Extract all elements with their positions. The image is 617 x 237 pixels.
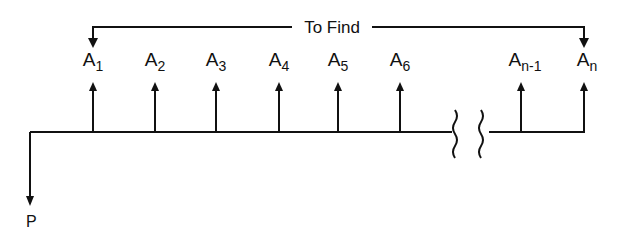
cash-flow-label-an-1: An-1: [509, 50, 542, 73]
timeline-break-icon: [453, 110, 483, 158]
cash-flow-label-a6: A6: [390, 50, 410, 73]
present-value-arrow: [26, 132, 34, 206]
bracket-arrowheads: [88, 38, 589, 48]
cash-flow-label-a1: A1: [83, 50, 103, 73]
cash-flow-label-a3: A3: [206, 50, 226, 73]
to-find-label: To Find: [298, 18, 366, 38]
arrow-down-icon: [88, 38, 98, 48]
cash-flow-label-a2: A2: [145, 50, 165, 73]
cash-flow-label-a5: A5: [328, 50, 348, 73]
arrow-down-icon: [579, 38, 589, 48]
cash-flow-label-an: An: [577, 50, 597, 73]
present-value-label: P: [26, 213, 37, 231]
arrow-down-icon: [26, 196, 34, 206]
cash-flow-label-a4: A4: [269, 50, 289, 73]
cash-flow-arrows: [89, 82, 588, 132]
